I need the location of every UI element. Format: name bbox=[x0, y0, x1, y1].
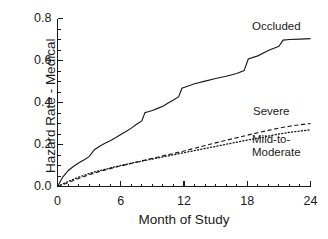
y-axis-title: Hazard Rate - Medical bbox=[44, 11, 58, 201]
x-tick-label-4: 24 bbox=[296, 195, 326, 208]
series-label-occluded: Occluded bbox=[252, 20, 301, 33]
series-label-severe: Severe bbox=[253, 105, 289, 118]
x-tick-label-1: 6 bbox=[106, 195, 136, 208]
x-tick-label-3: 18 bbox=[232, 195, 262, 208]
x-tick-label-2: 12 bbox=[169, 195, 199, 208]
chart-ticks bbox=[58, 19, 311, 187]
series-label-mild-line1: Mild-to- bbox=[252, 133, 301, 146]
series-label-mild-line2: Moderate bbox=[252, 146, 301, 159]
x-axis-title: Month of Study bbox=[57, 213, 311, 227]
series-label-mild-to-moderate: Mild-to- Moderate bbox=[252, 133, 301, 159]
hazard-rate-chart: 0.0 0.2 0.4 0.6 0.8 0 6 12 18 24 Hazard … bbox=[0, 0, 328, 239]
chart-axes bbox=[58, 19, 311, 187]
